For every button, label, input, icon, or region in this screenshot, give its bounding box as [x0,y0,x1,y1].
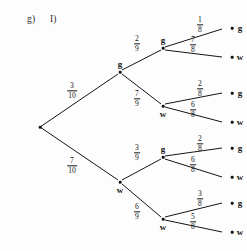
fraction-numerator: 6 [190,156,196,164]
probability-g1-gw: 79 [134,90,140,107]
tree-node-ggw [231,56,234,59]
tree-node-gww [231,121,234,124]
probability-gg-ggg: 18 [197,16,203,33]
probability-w1-wg: 39 [134,144,140,161]
tree-node-g1 [119,71,122,74]
tree-branch-g1-gg [122,50,161,70]
fraction-denominator: 9 [134,213,140,221]
fraction-denominator: 8 [197,26,203,34]
fraction-numerator: 5 [190,213,196,221]
node-label-wg: g [161,145,166,154]
tree-branches [0,0,247,251]
tree-node-root [39,126,42,129]
fraction-denominator: 8 [197,145,203,153]
tree-branch-root-w1 [40,127,118,180]
tree-node-gw [162,105,165,108]
probability-root-g1: 310 [67,82,77,99]
node-label-w1: w [117,186,124,195]
fraction-denominator: 10 [67,92,77,100]
probability-wg-wgg: 28 [197,135,203,152]
tree-branch-w1-ww [122,184,161,217]
node-label-ggw: w [237,53,244,62]
tree-node-gwg [231,92,234,95]
fraction-numerator: 6 [134,203,140,211]
tree-node-wg [162,156,165,159]
probability-w1-ww: 69 [134,203,140,220]
fraction-denominator: 8 [190,111,196,119]
fraction-denominator: 9 [134,45,140,53]
tree-node-gg [162,47,165,50]
node-label-wwg: g [238,199,243,208]
node-label-gw: w [160,110,167,119]
probability-wg-wgw: 68 [190,156,196,173]
node-label-wgg: g [238,144,243,153]
fraction-denominator: 8 [197,90,203,98]
fraction-numerator: 7 [134,90,140,98]
tree-node-wgw [231,176,234,179]
fraction-numerator: 2 [197,135,203,143]
fraction-numerator: 7 [67,157,77,165]
probability-gw-gww: 68 [190,101,196,118]
fraction-numerator: 1 [197,16,203,24]
tree-node-w1 [119,181,122,184]
node-label-wgw: w [237,173,244,182]
node-label-gwg: g [238,89,243,98]
probability-ww-www: 58 [190,213,196,230]
fraction-denominator: 8 [190,223,196,231]
tree-node-ww [162,218,165,221]
node-label-ww: w [160,223,167,232]
fraction-numerator: 7 [190,36,196,44]
probability-g1-gg: 29 [134,35,140,52]
tree-node-wwg [231,202,234,205]
fraction-denominator: 10 [67,167,77,175]
tree-branch-root-g1 [40,74,118,127]
tree-node-www [231,231,234,234]
fraction-denominator: 8 [197,200,203,208]
probability-ww-wwg: 38 [197,190,203,207]
node-label-gg: g [161,36,166,45]
fraction-numerator: 2 [134,35,140,43]
probability-gw-gwg: 28 [197,80,203,97]
node-label-gww: w [237,118,244,127]
fraction-numerator: 6 [190,101,196,109]
tree-node-wgg [231,147,234,150]
tree-branch-w1-wg [122,159,161,180]
node-label-ggg: g [238,24,243,33]
node-label-g1: g [118,60,123,69]
fraction-numerator: 3 [134,144,140,152]
fraction-numerator: 3 [67,82,77,90]
tree-diagram-canvas: g) I) gwgwgwgwgwgwgw 3107102979396918782… [0,0,247,251]
probability-gg-ggw: 78 [190,36,196,53]
fraction-denominator: 8 [190,46,196,54]
fraction-denominator: 8 [190,166,196,174]
node-label-www: w [237,228,244,237]
tree-branch-g1-gw [122,74,161,104]
fraction-numerator: 2 [197,80,203,88]
tree-node-ggg [231,27,234,30]
fraction-denominator: 9 [134,100,140,108]
fraction-numerator: 3 [197,190,203,198]
probability-root-w1: 710 [67,157,77,174]
fraction-denominator: 9 [134,154,140,162]
